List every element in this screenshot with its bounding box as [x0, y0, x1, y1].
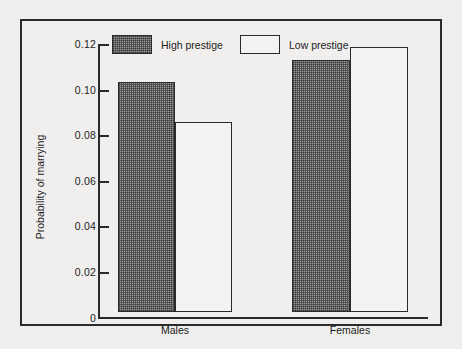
x-category-label-females: Females — [330, 324, 370, 336]
x-category-label-males: Males — [161, 324, 189, 336]
y-tick-label-0.12: 0.12 — [75, 38, 96, 50]
bar-males-high-prestige — [118, 82, 175, 312]
y-tick-label-0.06: 0.06 — [75, 175, 96, 187]
bar-females-high-prestige — [292, 60, 350, 313]
y-tick-label-0.04: 0.04 — [75, 220, 96, 232]
y-tick-0.02 — [100, 272, 109, 274]
y-tick-label-0.10: 0.10 — [75, 84, 96, 96]
y-tick-0.12 — [100, 44, 109, 46]
y-tick-0.06 — [100, 181, 109, 183]
legend-item-low-prestige: Low prestige — [240, 35, 349, 54]
legend-item-high-prestige: High prestige — [112, 35, 223, 54]
legend-swatch-high-prestige — [112, 35, 152, 54]
y-tick-label-0.02: 0.02 — [75, 266, 96, 278]
plot-area: 0.12 0.10 0.08 0.06 0.04 0.02 0 Probabil… — [22, 21, 440, 324]
legend-label-low-prestige: Low prestige — [289, 39, 349, 51]
y-tick-label-0: 0 — [90, 312, 96, 324]
y-axis-title: Probability of marrying — [34, 107, 46, 267]
y-tick-0.08 — [100, 135, 109, 137]
y-tick-label-0.08: 0.08 — [75, 129, 96, 141]
y-tick-0.10 — [100, 90, 109, 92]
y-tick-0.04 — [100, 226, 109, 228]
legend-label-high-prestige: High prestige — [161, 39, 223, 51]
bar-males-low-prestige — [175, 122, 232, 312]
legend-swatch-low-prestige — [240, 35, 280, 54]
chart-figure-frame: 0.12 0.10 0.08 0.06 0.04 0.02 0 Probabil… — [20, 19, 442, 326]
bar-females-low-prestige — [350, 47, 408, 312]
x-axis-line — [98, 317, 428, 319]
